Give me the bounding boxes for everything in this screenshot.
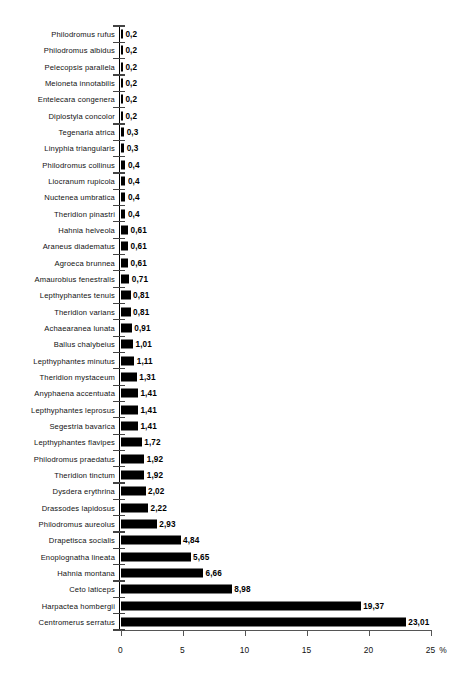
bar [121, 568, 204, 577]
category-label: Dysdera erythrina [53, 487, 115, 496]
bar-row: Meioneta innotabilis0,2 [0, 75, 464, 91]
bar-row: Liocranum rupicola0,4 [0, 173, 464, 189]
category-label: Theridion pinastri [54, 209, 115, 218]
bar [121, 209, 126, 218]
category-label: Theridion varians [54, 307, 115, 316]
bar [121, 536, 181, 545]
bar [121, 552, 191, 561]
x-axis-tick-label: 10 [240, 645, 250, 655]
bar-value-label: 6,66 [206, 568, 222, 577]
category-label: Anyphaena accentuata [34, 389, 115, 398]
category-label: Achaearanea lunata [44, 323, 115, 332]
bar-row: Nuctenea umbratica0,4 [0, 189, 464, 205]
bar-value-label: 0,71 [132, 275, 148, 284]
bar-row: Harpactea hombergii19,37 [0, 597, 464, 613]
category-label: Centromerus serratus [39, 617, 115, 626]
bar [121, 160, 126, 169]
category-label: Ballus chalybeius [54, 340, 115, 349]
bar-chart: Philodromus rufus0,2Philodromus albidus0… [0, 0, 464, 677]
bar [121, 307, 131, 316]
x-axis-tick-label: 0 [118, 645, 123, 655]
x-axis-unit-label: % [439, 645, 446, 655]
bar [121, 226, 129, 235]
category-label: Philodromus praedatus [34, 454, 115, 463]
category-label: Harpactea hombergii [42, 601, 115, 610]
bar-value-label: 0,2 [125, 46, 137, 55]
bar [121, 372, 137, 381]
bar-value-label: 0,4 [128, 209, 140, 218]
bar-value-label: 0,2 [125, 111, 137, 120]
bar-row: Drassodes lapidosus2,22 [0, 499, 464, 515]
bar [121, 438, 142, 447]
bar-row: Ballus chalybeius1,01 [0, 336, 464, 352]
bar-value-label: 2,02 [148, 487, 164, 496]
bar [121, 30, 123, 39]
bar-row: Araneus diadematus0,61 [0, 238, 464, 254]
bar-value-label: 0,81 [133, 307, 149, 316]
bar-value-label: 0,2 [125, 79, 137, 88]
bar-value-label: 1,11 [137, 356, 153, 365]
category-label: Segestria bavarica [49, 421, 115, 430]
bar-row: Linyphia triangularis0,3 [0, 140, 464, 156]
bar-value-label: 0,2 [125, 95, 137, 104]
bar-row: Hahnia montana6,66 [0, 565, 464, 581]
bar [121, 258, 129, 267]
bar-value-label: 0,81 [133, 291, 149, 300]
category-label: Meioneta innotabilis [45, 79, 115, 88]
bar-value-label: 5,65 [193, 552, 209, 561]
x-axis-tick-label: 15 [302, 645, 312, 655]
bar-value-label: 1,92 [147, 470, 163, 479]
bar [121, 421, 138, 430]
bar-value-label: 8,98 [234, 585, 250, 594]
bar-row: Amaurobius fenestralis0,71 [0, 271, 464, 287]
bar-row: Philodromus collinus0,4 [0, 157, 464, 173]
bar [121, 340, 134, 349]
x-axis-tick-label: 20 [364, 645, 374, 655]
bar-row: Philodromus aureolus2,93 [0, 516, 464, 532]
bar [121, 389, 138, 398]
bar [121, 454, 145, 463]
bar-row: Segestria bavarica1,41 [0, 418, 464, 434]
bar-row: Hahnia helveola0,61 [0, 222, 464, 238]
category-label: Ceto laticeps [69, 585, 115, 594]
bar-row: Achaearanea lunata0,91 [0, 320, 464, 336]
bar-row: Dysdera erythrina2,02 [0, 483, 464, 499]
bar-value-label: 0,61 [131, 226, 147, 235]
category-label: Theridion mystaceum [40, 372, 115, 381]
bar [121, 111, 123, 120]
bar-value-label: 1,41 [140, 405, 156, 414]
y-axis-tick [113, 629, 125, 630]
y-axis-tick [113, 25, 125, 26]
x-axis-tick-label: 25 [426, 645, 436, 655]
bar-value-label: 0,91 [134, 323, 150, 332]
bar-row: Diplostyla concolor0,2 [0, 108, 464, 124]
bar-row: Philodromus albidus0,2 [0, 42, 464, 58]
bar-row: Theridion mystaceum1,31 [0, 369, 464, 385]
bar [121, 46, 123, 55]
category-label: Tegenaria atrica [59, 128, 115, 137]
category-label: Lepthyphantes minutus [33, 356, 115, 365]
category-label: Araneus diadematus [43, 242, 115, 251]
bar-value-label: 0,3 [127, 144, 139, 153]
x-axis-tick [245, 630, 246, 636]
bar-row: Theridion pinastri0,4 [0, 206, 464, 222]
bar [121, 177, 126, 186]
category-label: Enoplognatha lineata [41, 552, 115, 561]
bar [121, 487, 146, 496]
bar [121, 291, 131, 300]
bar-row: Lepthyphantes tenuis0,81 [0, 287, 464, 303]
bar-row: Drapetisca socialis4,84 [0, 532, 464, 548]
bar-row: Enoplognatha lineata5,65 [0, 548, 464, 564]
category-label: Hahnia montana [57, 568, 115, 577]
bar [121, 519, 157, 528]
bar-value-label: 0,61 [131, 258, 147, 267]
x-axis-tick-label: 5 [180, 645, 185, 655]
bar-value-label: 0,61 [131, 242, 147, 251]
bar-row: Theridion varians0,81 [0, 304, 464, 320]
bar [121, 470, 145, 479]
bar [121, 79, 123, 88]
category-label: Agroeca brunnea [54, 258, 115, 267]
bar-value-label: 1,41 [140, 389, 156, 398]
bar-value-label: 1,31 [139, 372, 155, 381]
category-label: Hahnia helveola [58, 226, 115, 235]
